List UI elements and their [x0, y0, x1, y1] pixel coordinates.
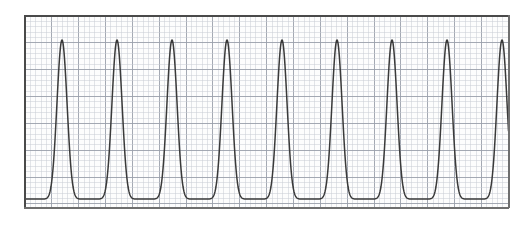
graph-paper-grid [25, 16, 508, 207]
waveform-plot [0, 0, 532, 228]
figure-root [0, 0, 532, 228]
